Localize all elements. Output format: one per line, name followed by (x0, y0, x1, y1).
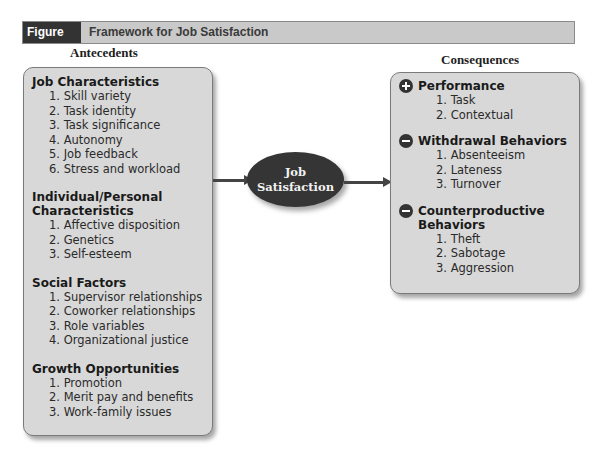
figure-title: Framework for Job Satisfaction (89, 22, 268, 43)
list-item: 3. Turnover (399, 177, 571, 192)
list-item: 3. Work-family issues (32, 405, 204, 420)
list-item: 5. Job feedback (32, 147, 204, 162)
list-item: 3. Role variables (32, 319, 204, 334)
arrow-antecedents-to-satisfaction (213, 179, 245, 182)
list-item: 2. Coworker relationships (32, 304, 204, 319)
section-counterproductive-behaviors: Counterproductive Behaviors 1. Theft 2. … (399, 204, 571, 276)
section-title: Job Characteristics (32, 75, 204, 89)
section-title-line2: Behaviors (418, 218, 545, 232)
section-individual-characteristics: Individual/Personal Characteristics 1. A… (32, 190, 204, 262)
section-title: Growth Opportunities (32, 362, 204, 376)
list-item: 2. Lateness (399, 163, 571, 178)
list-item: 3. Task significance (32, 118, 204, 133)
list-item: 2. Genetics (32, 233, 204, 248)
list-item: 1. Supervisor relationships (32, 290, 204, 305)
section-growth-opportunities: Growth Opportunities 1. Promotion 2. Mer… (32, 362, 204, 420)
list-item: 1. Absenteeism (399, 148, 571, 163)
minus-icon (399, 204, 413, 218)
figure-header: Figure 10.3 Framework for Job Satisfacti… (22, 21, 575, 44)
list-item: 2. Merit pay and benefits (32, 390, 204, 405)
plus-icon (399, 79, 413, 93)
section-title: Performance (418, 79, 505, 93)
list-item: 3. Self-esteem (32, 247, 204, 262)
figure-label: Figure 10.3 (23, 22, 81, 43)
list-item: 1. Task (399, 93, 571, 108)
job-satisfaction-node: Job Satisfaction (247, 152, 344, 207)
consequences-heading: Consequences (441, 52, 519, 68)
list-item: 3. Aggression (399, 261, 571, 276)
section-title-line2: Characteristics (32, 204, 204, 218)
list-item: 2. Task identity (32, 104, 204, 119)
section-title-line1: Individual/Personal (32, 190, 204, 204)
list-item: 1. Theft (399, 232, 571, 247)
list-item: 1. Affective disposition (32, 218, 204, 233)
antecedents-heading: Antecedents (70, 45, 138, 61)
antecedents-box: Job Characteristics 1. Skill variety 2. … (23, 67, 213, 436)
node-label-line2: Satisfaction (257, 180, 334, 195)
section-title: Withdrawal Behaviors (418, 134, 567, 148)
section-social-factors: Social Factors 1. Supervisor relationshi… (32, 276, 204, 348)
node-label-line1: Job (285, 165, 306, 180)
minus-icon (399, 134, 413, 148)
consequences-box: Performance 1. Task 2. Contextual Withdr… (390, 72, 580, 294)
section-withdrawal-behaviors: Withdrawal Behaviors 1. Absenteeism 2. L… (399, 134, 571, 192)
section-title-line1: Counterproductive (418, 204, 545, 218)
section-performance: Performance 1. Task 2. Contextual (399, 79, 571, 122)
section-title: Social Factors (32, 276, 204, 290)
list-item: 6. Stress and workload (32, 162, 204, 177)
list-item: 1. Skill variety (32, 89, 204, 104)
list-item: 4. Autonomy (32, 133, 204, 148)
list-item: 2. Contextual (399, 108, 571, 123)
arrow-satisfaction-to-consequences (344, 181, 384, 184)
list-item: 4. Organizational justice (32, 333, 204, 348)
section-job-characteristics: Job Characteristics 1. Skill variety 2. … (32, 75, 204, 176)
list-item: 1. Promotion (32, 376, 204, 391)
list-item: 2. Sabotage (399, 246, 571, 261)
